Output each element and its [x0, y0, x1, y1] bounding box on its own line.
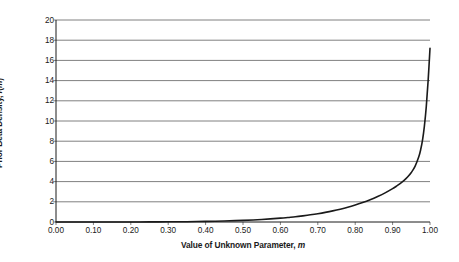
- density-curve: [56, 48, 430, 222]
- chart-figure: Prior Beta Density, f(m) Value of Unknow…: [0, 0, 459, 262]
- plot-area: [0, 0, 459, 262]
- axis-ticks: [53, 20, 430, 225]
- gridlines: [56, 20, 430, 202]
